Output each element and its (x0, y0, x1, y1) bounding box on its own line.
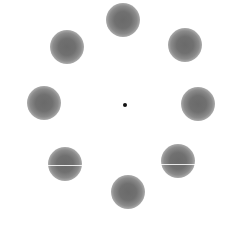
scanline-artifact-right (160, 164, 196, 165)
blob-right (181, 87, 215, 121)
stimulus-canvas (0, 0, 234, 228)
blob-bottom (111, 175, 145, 209)
blob-top (106, 3, 140, 37)
fixation-point (123, 103, 127, 107)
blob-left (27, 86, 61, 120)
blob-bottom-right (161, 144, 195, 178)
blob-top-left (50, 30, 84, 64)
blob-bottom-left (48, 147, 82, 181)
blob-top-right (168, 28, 202, 62)
scanline-artifact-left (48, 165, 84, 166)
